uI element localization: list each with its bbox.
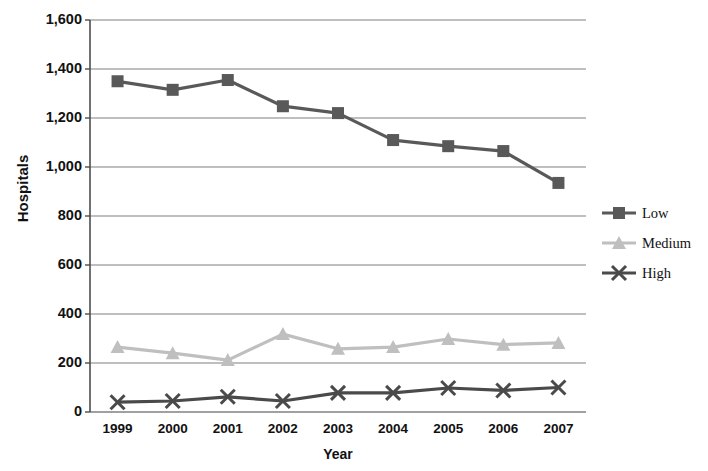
- data-point-low: [442, 140, 454, 152]
- y-tick-label: 600: [24, 257, 82, 272]
- x-tick-label: 2006: [473, 421, 533, 436]
- x-axis-title: Year: [90, 446, 586, 462]
- x-tick-label: 2001: [198, 421, 258, 436]
- x-tick-label: 2004: [363, 421, 423, 436]
- data-point-low: [332, 107, 344, 119]
- y-axis-tick-labels: 02004006008001,0001,2001,4001,600: [20, 0, 82, 471]
- y-tick-label: 1,200: [24, 110, 82, 125]
- x-tick-label: 2000: [143, 421, 203, 436]
- legend-item-medium[interactable]: Medium: [600, 228, 708, 258]
- x-tick-label: 2007: [528, 421, 588, 436]
- data-point-low: [387, 134, 399, 146]
- legend-marker-triangle-icon: [600, 233, 638, 253]
- line-chart: Hospitals 02004006008001,0001,2001,4001,…: [0, 0, 708, 471]
- data-point-low: [222, 74, 234, 86]
- data-point-low: [497, 145, 509, 157]
- legend-label: Low: [638, 205, 669, 222]
- x-tick-label: 2005: [418, 421, 478, 436]
- y-tick-label: 400: [24, 306, 82, 321]
- data-point-low: [552, 177, 564, 189]
- data-point-low: [277, 100, 289, 112]
- x-tick-label: 1999: [88, 421, 148, 436]
- y-tick-label: 800: [24, 208, 82, 223]
- y-tick-label: 200: [24, 355, 82, 370]
- legend-item-high[interactable]: High: [600, 258, 708, 288]
- legend-label: High: [638, 265, 671, 282]
- legend-square-icon: [613, 207, 625, 219]
- data-point-medium: [276, 327, 290, 340]
- y-tick-label: 0: [24, 404, 82, 419]
- data-point-low: [167, 84, 179, 96]
- data-point-low: [112, 75, 124, 87]
- chart-legend: LowMediumHigh: [600, 198, 708, 288]
- y-tick-label: 1,600: [24, 12, 82, 27]
- x-tick-label: 2002: [253, 421, 313, 436]
- legend-marker-x-icon: [600, 263, 638, 283]
- y-tick-label: 1,400: [24, 61, 82, 76]
- y-tick-label: 1,000: [24, 159, 82, 174]
- legend-marker-square-icon: [600, 203, 638, 223]
- legend-item-low[interactable]: Low: [600, 198, 708, 228]
- x-tick-label: 2003: [308, 421, 368, 436]
- legend-label: Medium: [638, 235, 691, 252]
